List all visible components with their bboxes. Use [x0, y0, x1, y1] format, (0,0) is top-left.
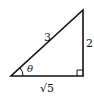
angle-theta-label: θ [27, 63, 33, 74]
hypotenuse-label: 3 [44, 31, 51, 44]
adjacent-side-label: √5 [40, 82, 54, 95]
opposite-side-label: 2 [86, 37, 93, 50]
angle-arc [20, 68, 23, 76]
right-angle-marker [77, 70, 83, 76]
right-triangle-diagram: 3 2 √5 θ [0, 0, 94, 97]
